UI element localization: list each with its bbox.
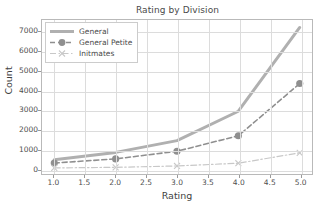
gridline-vertical	[178, 20, 179, 174]
y-axis-tick: 0	[4, 166, 38, 174]
y-axis-tick: 5000	[4, 67, 38, 75]
x-axis-tick: 1.5	[69, 178, 99, 187]
legend-item[interactable]: Initmates	[49, 48, 132, 59]
y-axis-tick-labels: 01000200030004000500060007000	[0, 19, 38, 175]
gridline-vertical	[302, 20, 303, 174]
x-axis-tick: 4.5	[255, 178, 285, 187]
y-axis-tick: 3000	[4, 106, 38, 114]
y-axis-tick: 6000	[4, 47, 38, 55]
gridline-vertical	[209, 20, 210, 174]
x-axis-tick: 2.5	[131, 178, 161, 187]
data-point-marker	[235, 132, 242, 139]
chart-title: Rating by Division	[0, 5, 331, 15]
x-axis-tick-labels: 1.01.52.02.53.03.54.04.55.0	[41, 178, 313, 190]
x-axis-tick: 3.5	[193, 178, 223, 187]
x-axis-tick: 1.0	[38, 178, 68, 187]
x-axis-tick: 3.0	[162, 178, 192, 187]
y-axis-tick: 1000	[4, 146, 38, 154]
legend-item-label: General	[79, 27, 109, 36]
x-axis-tickmark	[208, 175, 209, 178]
y-axis-tick: 7000	[4, 27, 38, 35]
gridline-vertical	[147, 20, 148, 174]
y-axis-tick: 4000	[4, 87, 38, 95]
legend-item-label: General Petite	[79, 38, 132, 47]
x-axis-tick: 5.0	[286, 178, 316, 187]
x-axis-tickmark	[53, 175, 54, 178]
legend-item[interactable]: General	[49, 26, 132, 37]
x-axis-tickmark	[146, 175, 147, 178]
legend-line-sample-icon	[49, 48, 75, 59]
chart-figure: Rating by Division Count Rating 01000200…	[0, 0, 331, 219]
y-axis-tick: 2000	[4, 126, 38, 134]
x-axis-tickmark	[239, 175, 240, 178]
gridline-vertical	[271, 20, 272, 174]
x-axis-tick: 2.0	[100, 178, 130, 187]
legend-item-label: Initmates	[79, 49, 114, 58]
legend-item[interactable]: General Petite	[49, 37, 132, 48]
chart-legend: GeneralGeneral PetiteInitmates	[45, 22, 138, 63]
gridline-vertical	[240, 20, 241, 174]
x-axis-tick: 4.0	[224, 178, 254, 187]
x-axis-tickmark	[270, 175, 271, 178]
x-axis-tickmark	[301, 175, 302, 178]
x-axis-tickmark	[84, 175, 85, 178]
legend-line-sample-icon	[49, 26, 75, 37]
legend-line-sample-icon	[49, 37, 75, 48]
x-axis-tickmark	[177, 175, 178, 178]
x-axis-label: Rating	[41, 190, 313, 201]
x-axis-tickmark	[115, 175, 116, 178]
